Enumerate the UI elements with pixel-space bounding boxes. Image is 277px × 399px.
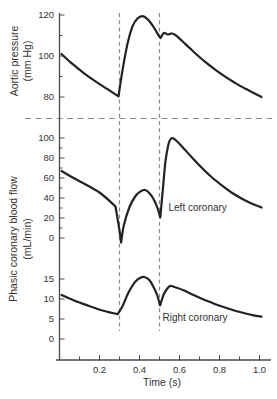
y-tick-label: 100 <box>38 132 54 143</box>
curves-layer <box>62 16 262 316</box>
event-markers-layer <box>120 13 160 331</box>
x-tick-label: 0.2 <box>93 364 106 375</box>
right-coronary-flow-curve <box>62 277 262 317</box>
coronary-flow-axis-title: Phasic coronary blood flow <box>7 176 19 302</box>
left-coronary-label: Left coronary <box>169 202 227 213</box>
x-tick-label: 0.8 <box>213 364 226 375</box>
y-tick-label: 60 <box>43 172 54 183</box>
y-tick-label: 80 <box>43 91 54 102</box>
aortic-pressure-axis-units: (mm Hg) <box>21 41 33 82</box>
y-tick-label: 15 <box>43 273 54 284</box>
y-tick-label: 0 <box>49 333 54 344</box>
coronary-flow-axis-units: (mL/min) <box>21 218 33 259</box>
x-tick-label: 0.4 <box>133 364 146 375</box>
aortic-pressure-curve <box>62 16 262 97</box>
y-tick-label: 100 <box>38 50 54 61</box>
x-tick-label: 1.0 <box>253 364 266 375</box>
y-tick-label: 5 <box>49 313 54 324</box>
x-axis-title: Time (s) <box>143 376 181 388</box>
y-tick-label: 10 <box>43 293 54 304</box>
left-coronary-flow-curve <box>62 138 262 242</box>
right-coronary-label: Right coronary <box>163 312 228 323</box>
aortic-pressure-axis-title: Aortic pressure <box>8 26 20 97</box>
y-tick-label: 40 <box>43 192 54 203</box>
coronary-blood-flow-chart: 0.20.40.60.81.08010012002040608010005101… <box>0 0 277 399</box>
x-tick-label: 0.6 <box>173 364 186 375</box>
figure-container: 0.20.40.60.81.08010012002040608010005101… <box>0 0 277 399</box>
y-tick-label: 0 <box>49 232 54 243</box>
y-tick-label: 80 <box>43 152 54 163</box>
y-tick-label: 20 <box>43 212 54 223</box>
y-tick-label: 120 <box>38 9 54 20</box>
